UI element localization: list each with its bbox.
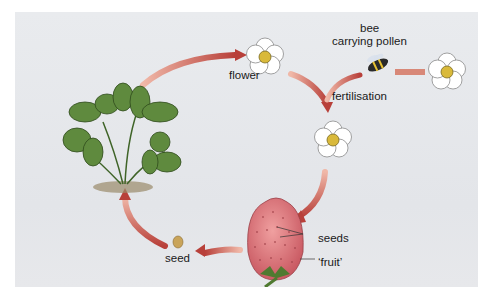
arrow-flower-to-fertilised bbox=[291, 74, 333, 113]
arrow-fruit-to-seed bbox=[195, 244, 240, 257]
strawberry-plant bbox=[63, 83, 181, 193]
label-flower: flower bbox=[229, 69, 260, 81]
lifecycle-diagram: flower bee carrying pollen fertilisation… bbox=[15, 12, 478, 287]
fertilised-flower-icon bbox=[315, 121, 352, 157]
pollen-source-flower-icon bbox=[429, 53, 466, 89]
diagram-artwork bbox=[15, 12, 478, 287]
label-seeds: seeds bbox=[318, 232, 349, 244]
label-fruit: ‘fruit’ bbox=[318, 256, 342, 268]
bee-icon bbox=[363, 50, 390, 74]
label-seed: seed bbox=[165, 252, 190, 264]
label-fertilisation: fertilisation bbox=[332, 90, 387, 102]
label-bee-carrying-pollen: carrying pollen bbox=[332, 35, 407, 47]
label-bee: bee bbox=[360, 22, 379, 34]
seed-icon bbox=[173, 236, 183, 248]
arrow-seed-to-plant bbox=[119, 188, 165, 246]
